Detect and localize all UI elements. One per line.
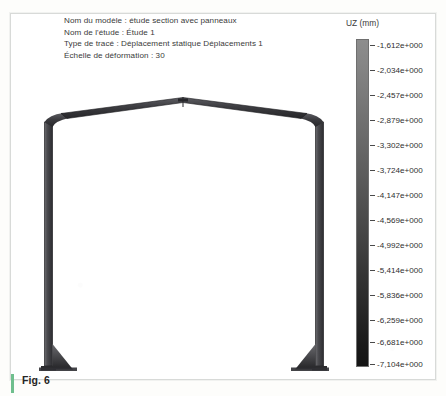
colorbar-tick-label: -4,992e+000: [377, 241, 423, 250]
figure-panel: Nom du modèle : étude section avec panne…: [10, 13, 436, 380]
left-rafter: [61, 98, 183, 119]
colorbar-tick: [370, 195, 375, 196]
colorbar-title: UZ (mm): [346, 18, 379, 28]
colorbar-tick: [370, 245, 375, 246]
colorbar-tick: [370, 342, 375, 343]
right-rafter: [183, 98, 307, 119]
scanned-page: Nom du modèle : étude section avec panne…: [0, 0, 446, 396]
colorbar-tick-label: -5,836e+000: [377, 291, 423, 300]
colorbar-tick-label: -4,147e+000: [377, 191, 423, 200]
colorbar-tick: [370, 70, 375, 71]
right-column: [316, 122, 324, 366]
colorbar-tick-label: -7,104e+000: [377, 360, 423, 369]
colorbar-tick: [370, 95, 375, 96]
colorbar-tick-label: -3,302e+000: [377, 141, 423, 150]
colorbar-tick-label: -4,569e+000: [377, 216, 423, 225]
colorbar-tick: [370, 170, 375, 171]
left-column: [45, 122, 53, 366]
colorbar-tick: [370, 120, 375, 121]
colorbar-tick-label: -1,612e+000: [377, 41, 423, 50]
colorbar-tick: [370, 145, 375, 146]
colorbar-tick-label: -6,681e+000: [377, 338, 423, 347]
colorbar-tick-label: -5,414e+000: [377, 266, 423, 275]
colorbar-tick-label: -6,259e+000: [377, 316, 423, 325]
colorbar-gradient: [356, 39, 369, 367]
colorbar-legend: UZ (mm) -1,612e+000 -2,034e+000 -2,457e+…: [336, 14, 441, 379]
caption-accent-bar: [11, 374, 14, 393]
colorbar-tick-label: -3,724e+000: [377, 166, 423, 175]
colorbar-tick-label: -2,879e+000: [377, 116, 423, 125]
colorbar-tick: [370, 270, 375, 271]
colorbar-tick: [370, 295, 375, 296]
colorbar-tick-label: -2,457e+000: [377, 91, 423, 100]
colorbar-tick-label: -2,034e+000: [377, 66, 423, 75]
colorbar-tick: [370, 320, 375, 321]
colorbar-tick: [370, 45, 375, 46]
figure-caption: Fig. 6: [22, 374, 50, 386]
fea-structure-plot: [11, 14, 351, 379]
colorbar-tick: [370, 220, 375, 221]
colorbar-tick: [370, 364, 375, 365]
